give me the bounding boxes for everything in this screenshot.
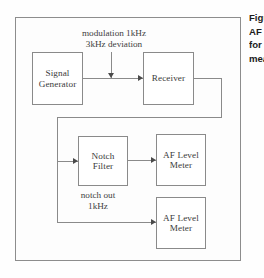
block-signal-generator-line-1: Signal [39, 68, 77, 78]
figure-caption-line-1: Figure [249, 11, 264, 25]
block-signal-generator: Signal Generator [32, 52, 83, 105]
block-af-level-meter-2-line-1: AF Level [163, 213, 199, 223]
figure-caption-line-4: measurement [249, 52, 264, 66]
figure-caption-line-3: for [249, 38, 264, 52]
figure-caption-line-2: AF [249, 25, 264, 39]
wire-bus-top [57, 117, 222, 118]
block-af-level-meter-2: AF Level Meter [156, 197, 206, 249]
block-af-level-meter-2-line-2: Meter [163, 223, 199, 233]
wire-bus-to-af-level-meter-2 [57, 222, 156, 223]
block-notch-filter-line-1: Notch [92, 151, 115, 161]
wire-bus-left [57, 117, 58, 223]
annotation-notch-out-line-1: notch out [62, 190, 134, 201]
figure-caption: Figure AF for measurement [249, 11, 264, 65]
annotation-notch-out-line-2: 1kHz [62, 201, 134, 212]
annotation-modulation: modulation 1kHz 3kHz deviation [62, 28, 166, 50]
block-receiver-line-1: Receiver [152, 73, 185, 83]
wire-receiver-output [194, 78, 222, 79]
annotation-notch-out: notch out 1kHz [62, 190, 134, 212]
arrow-down-icon-modulation [108, 73, 114, 78]
block-af-level-meter-1-line-1: AF Level [163, 150, 199, 160]
figure-canvas: Signal Generator Receiver Notch Filter A… [0, 0, 264, 278]
block-notch-filter: Notch Filter [78, 136, 128, 186]
wire-receiver-down [221, 78, 222, 117]
annotation-modulation-line-1: modulation 1kHz [62, 28, 166, 39]
block-af-level-meter-1: AF Level Meter [156, 134, 206, 186]
block-receiver: Receiver [143, 52, 194, 105]
wire-signal-generator-to-receiver [83, 78, 143, 79]
block-af-level-meter-1-line-2: Meter [163, 160, 199, 170]
annotation-modulation-line-2: 3kHz deviation [62, 39, 166, 50]
block-signal-generator-line-2: Generator [39, 79, 77, 89]
block-notch-filter-line-2: Filter [92, 161, 115, 171]
